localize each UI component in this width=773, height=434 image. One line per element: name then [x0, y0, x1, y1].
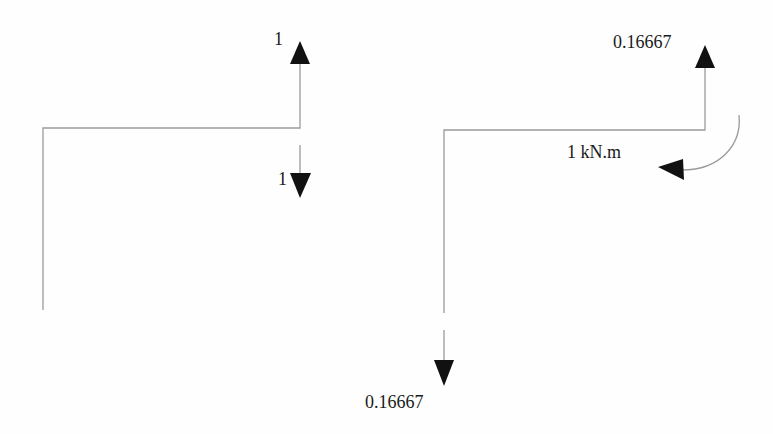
moment-arrow-icon	[658, 159, 684, 180]
right-bottom-force-label: 0.16667	[365, 393, 424, 411]
left-top-force-label: 1	[274, 30, 283, 48]
right-up-arrow-icon	[695, 45, 715, 68]
right-structure	[434, 45, 739, 386]
left-frame-member	[43, 63, 300, 310]
free-body-diagram	[0, 0, 773, 434]
right-frame-member	[444, 67, 705, 313]
left-up-arrow-icon	[290, 41, 310, 64]
moment-arc	[682, 115, 739, 170]
left-down-arrow-icon	[290, 173, 311, 198]
diagram-canvas: 1 1 0.16667 1 kN.m 0.16667	[0, 0, 773, 434]
moment-label: 1 kN.m	[567, 143, 621, 161]
right-down-arrow-icon	[434, 360, 454, 386]
left-structure	[43, 41, 311, 310]
left-bottom-force-label: 1	[278, 170, 287, 188]
right-top-force-label: 0.16667	[613, 33, 672, 51]
